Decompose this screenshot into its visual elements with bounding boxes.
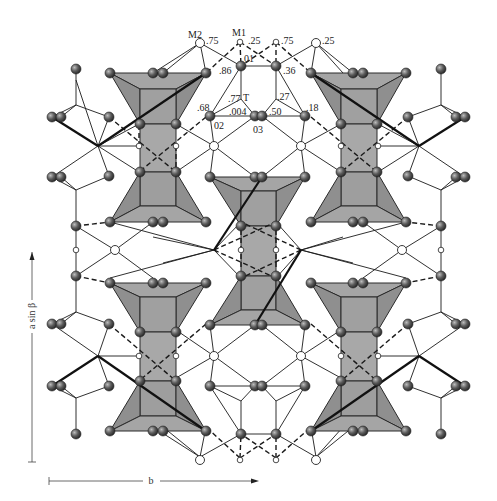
axis-label-b: b xyxy=(149,475,154,486)
height-o2: .68 xyxy=(197,102,210,113)
height-o1b: .36 xyxy=(283,65,296,76)
tetrahedral-chain-right-upper xyxy=(311,73,406,222)
tetrahedral-chain-right-lower xyxy=(311,283,406,431)
tetrahedral-chain-center xyxy=(210,177,305,325)
tetrahedral-chain-left-lower xyxy=(110,283,206,431)
label-m2: M2 xyxy=(188,29,202,40)
height-o2b: .18 xyxy=(306,102,319,113)
tetrahedral-chain-left-upper xyxy=(110,73,206,222)
axis-a-sin-beta xyxy=(28,252,36,462)
axis-b xyxy=(49,477,259,485)
height-t: .77 xyxy=(228,93,241,104)
label-m1: M1 xyxy=(232,27,246,38)
height-o3: .004 xyxy=(229,106,247,117)
height-m1: .25 xyxy=(248,35,261,46)
height-m1b: .75 xyxy=(281,35,294,46)
label-o1: 01 xyxy=(244,53,254,64)
height-m2: .75 xyxy=(206,35,219,46)
label-o2: 02 xyxy=(214,120,224,131)
height-tb: .27 xyxy=(277,91,290,102)
height-m2b: .25 xyxy=(322,35,335,46)
axis-label-a-sin-beta: a sin β xyxy=(26,303,37,329)
height-o3b: .50 xyxy=(269,106,282,117)
crystal-structure-diagram: M2 M1 T 01 02 03 .75 .25 .75 .25 .86 .36… xyxy=(0,0,497,501)
label-o3: 03 xyxy=(253,124,263,135)
height-o1: .86 xyxy=(219,65,232,76)
label-t: T xyxy=(243,92,249,103)
